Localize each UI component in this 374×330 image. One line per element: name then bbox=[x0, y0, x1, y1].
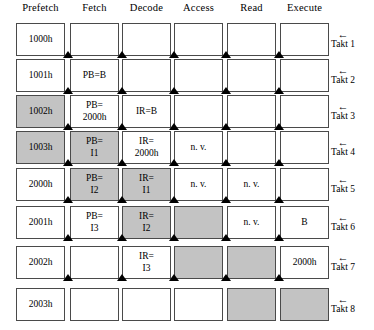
arrow-left-icon: ← bbox=[318, 65, 368, 75]
cell-read-takt-7 bbox=[227, 246, 276, 279]
takt-label-6: ←Takt 6 bbox=[318, 212, 368, 233]
cell-text-line1: B bbox=[301, 217, 307, 229]
pipeline-stage-arrow-icon bbox=[169, 159, 179, 166]
arrow-left-icon: ← bbox=[318, 212, 368, 222]
cell-text-line1: n. v. bbox=[190, 142, 206, 154]
cell-fetch-takt-3: PB=2000h bbox=[70, 95, 119, 128]
cell-prefetch-takt-4: 1003h bbox=[16, 131, 65, 164]
takt-label-2: ←Takt 2 bbox=[318, 65, 368, 86]
cell-read-takt-5: n. v. bbox=[227, 168, 276, 201]
pipeline-stage-arrow-icon bbox=[63, 234, 73, 241]
takt-label-text: Takt 1 bbox=[318, 39, 368, 50]
cell-decode-takt-7: IR=I3 bbox=[122, 246, 171, 279]
cell-read-takt-4 bbox=[227, 131, 276, 164]
cell-prefetch-takt-6: 2001h bbox=[16, 206, 65, 239]
pipeline-stage-arrow-icon bbox=[221, 87, 231, 94]
pipeline-stage-arrow-icon bbox=[221, 159, 231, 166]
pipeline-stage-arrow-icon bbox=[169, 274, 179, 281]
cell-prefetch-takt-5: 2000h bbox=[16, 168, 65, 201]
cell-text-line2: I2 bbox=[143, 223, 151, 235]
pipeline-stage-arrow-icon bbox=[117, 87, 127, 94]
cell-text-line2: I2 bbox=[91, 185, 99, 197]
cell-text-line1: 2000h bbox=[293, 257, 317, 269]
cell-text-line1: n. v. bbox=[243, 217, 259, 229]
cell-read-takt-6: n. v. bbox=[227, 206, 276, 239]
cell-text-line1: 1003h bbox=[29, 142, 53, 154]
cell-text-line1: 2003h bbox=[29, 299, 53, 311]
arrow-left-icon: ← bbox=[318, 29, 368, 39]
cell-text-line1: PB= bbox=[86, 136, 103, 148]
pipeline-stage-arrow-icon bbox=[221, 274, 231, 281]
takt-label-text: Takt 3 bbox=[318, 111, 368, 122]
column-header-execute: Execute bbox=[280, 2, 329, 13]
pipeline-stage-arrow-icon bbox=[63, 159, 73, 166]
pipeline-stage-arrow-icon bbox=[117, 123, 127, 130]
column-header-decode: Decode bbox=[122, 2, 171, 13]
pipeline-stage-arrow-icon bbox=[169, 123, 179, 130]
pipeline-stage-arrow-icon bbox=[221, 51, 231, 58]
cell-text-line1: IR= bbox=[139, 136, 154, 148]
takt-label-text: Takt 6 bbox=[318, 222, 368, 233]
takt-label-text: Takt 7 bbox=[318, 262, 368, 273]
cell-text-line1: IR= bbox=[139, 173, 154, 185]
takt-label-text: Takt 8 bbox=[318, 304, 368, 315]
cell-decode-takt-3: IR=B bbox=[122, 95, 171, 128]
pipeline-stage-arrow-icon bbox=[117, 159, 127, 166]
cell-access-takt-8 bbox=[174, 288, 223, 321]
cell-read-takt-3 bbox=[227, 95, 276, 128]
cell-fetch-takt-8 bbox=[70, 288, 119, 321]
cell-fetch-takt-7 bbox=[70, 246, 119, 279]
pipeline-stage-arrow-icon bbox=[117, 51, 127, 58]
cell-access-takt-2 bbox=[174, 59, 223, 92]
cell-access-takt-5: n. v. bbox=[174, 168, 223, 201]
cell-text-line1: PB= bbox=[86, 211, 103, 223]
pipeline-stage-arrow-icon bbox=[117, 234, 127, 241]
cell-text-line2: 2000h bbox=[135, 148, 159, 160]
cell-prefetch-takt-3: 1002h bbox=[16, 95, 65, 128]
pipeline-stage-arrow-icon bbox=[63, 51, 73, 58]
pipeline-stage-arrow-icon bbox=[169, 234, 179, 241]
pipeline-stage-arrow-icon bbox=[221, 123, 231, 130]
cell-text-line2: 2000h bbox=[83, 112, 107, 124]
pipeline-stage-arrow-icon bbox=[169, 196, 179, 203]
cell-access-takt-1 bbox=[174, 23, 223, 56]
cell-prefetch-takt-8: 2003h bbox=[16, 288, 65, 321]
pipeline-stage-arrow-icon bbox=[63, 87, 73, 94]
cell-read-takt-8 bbox=[227, 288, 276, 321]
arrow-left-icon: ← bbox=[318, 174, 368, 184]
column-header-prefetch: Prefetch bbox=[16, 2, 65, 13]
cell-fetch-takt-1 bbox=[70, 23, 119, 56]
pipeline-stage-arrow-icon bbox=[274, 51, 284, 58]
pipeline-stage-arrow-icon bbox=[63, 123, 73, 130]
pipeline-stage-arrow-icon bbox=[274, 274, 284, 281]
cell-text-line1: 1001h bbox=[29, 70, 53, 82]
pipeline-stage-arrow-icon bbox=[169, 51, 179, 58]
takt-label-4: ←Takt 4 bbox=[318, 137, 368, 158]
pipeline-stage-arrow-icon bbox=[117, 274, 127, 281]
cell-text-line2: I1 bbox=[143, 185, 151, 197]
pipeline-stage-arrow-icon bbox=[221, 234, 231, 241]
cell-text-line1: 1000h bbox=[29, 34, 53, 46]
pipeline-timing-diagram: PrefetchFetchDecodeAccessReadExecute1000… bbox=[0, 0, 374, 330]
cell-access-takt-7 bbox=[174, 246, 223, 279]
column-header-access: Access bbox=[174, 2, 223, 13]
pipeline-stage-arrow-icon bbox=[274, 123, 284, 130]
arrow-left-icon: ← bbox=[318, 252, 368, 262]
cell-text-line2: I1 bbox=[91, 148, 99, 160]
cell-text-line1: 1002h bbox=[29, 106, 53, 118]
column-header-fetch: Fetch bbox=[70, 2, 119, 13]
cell-text-line1: 2002h bbox=[29, 257, 53, 269]
cell-decode-takt-1 bbox=[122, 23, 171, 56]
takt-label-1: ←Takt 1 bbox=[318, 29, 368, 50]
takt-label-3: ←Takt 3 bbox=[318, 101, 368, 122]
takt-label-5: ←Takt 5 bbox=[318, 174, 368, 195]
pipeline-stage-arrow-icon bbox=[169, 87, 179, 94]
takt-label-7: ←Takt 7 bbox=[318, 252, 368, 273]
pipeline-stage-arrow-icon bbox=[221, 196, 231, 203]
cell-text-line1: 2001h bbox=[29, 217, 53, 229]
cell-text-line1: 2000h bbox=[29, 179, 53, 191]
pipeline-stage-arrow-icon bbox=[274, 234, 284, 241]
cell-decode-takt-5: IR=I1 bbox=[122, 168, 171, 201]
cell-prefetch-takt-7: 2002h bbox=[16, 246, 65, 279]
cell-access-takt-3 bbox=[174, 95, 223, 128]
